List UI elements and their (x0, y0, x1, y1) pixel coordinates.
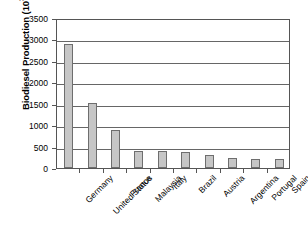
bar (158, 151, 167, 168)
bar (111, 130, 120, 168)
bar-slot (57, 20, 80, 168)
x-category-label: Brazil (196, 173, 218, 195)
y-tick-label: 1000 (29, 121, 48, 131)
y-tick-label: 500 (34, 143, 48, 153)
bar-slot (174, 20, 197, 168)
bar (134, 151, 143, 168)
y-tick-label: 1500 (29, 100, 48, 110)
x-axis-category-labels: GermanyUnited StatusFranceMalaysiaItalyB… (56, 173, 290, 234)
x-category-label: France (127, 173, 153, 199)
y-tick-label: 0 (43, 164, 48, 174)
y-tick-label: 3500 (29, 14, 48, 24)
bar-slot (244, 20, 267, 168)
bar-slot (268, 20, 291, 168)
y-tick-label: 2500 (29, 57, 48, 67)
bar-slot (127, 20, 150, 168)
bar (181, 152, 190, 168)
plot-area (56, 19, 290, 169)
bar (275, 159, 284, 168)
x-category-label: Austria (221, 173, 247, 199)
bar-slot (151, 20, 174, 168)
bar (64, 44, 73, 168)
bar-slot (104, 20, 127, 168)
y-tick-label: 3000 (29, 35, 48, 45)
bar (88, 103, 97, 168)
bar (228, 158, 237, 168)
bar (205, 155, 214, 168)
x-category-label: Germany (83, 173, 115, 205)
y-tick-label: 2000 (29, 78, 48, 88)
bar-slot (197, 20, 220, 168)
bars-layer (57, 20, 289, 168)
bar (251, 159, 260, 168)
biodiesel-production-bar-chart: Biodiesel Production (103 ton) 050010001… (0, 0, 308, 234)
bar-slot (221, 20, 244, 168)
bar-slot (80, 20, 103, 168)
y-axis-tick-labels: 0500100015002000250030003500 (0, 0, 56, 200)
